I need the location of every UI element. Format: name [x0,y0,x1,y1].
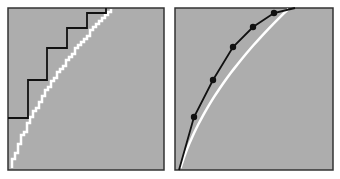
right-panel [175,8,333,170]
right-panel-frame [175,8,333,170]
sample-point [250,24,256,30]
left-panel [8,8,164,170]
sample-point [210,77,216,83]
sample-point [271,10,277,16]
sample-point [230,44,236,50]
left-panel-frame [8,8,164,170]
sample-point [191,114,197,120]
figure [0,0,340,179]
